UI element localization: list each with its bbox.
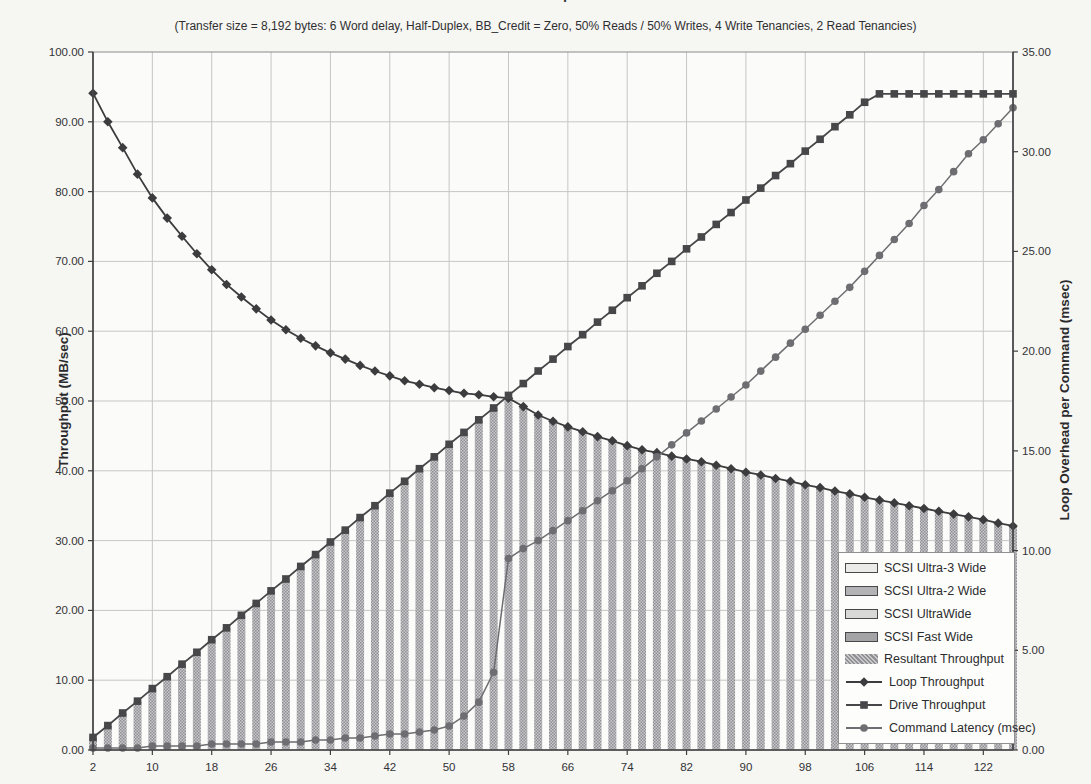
legend-item-scsi-ultrawide: SCSI UltraWide — [845, 603, 1008, 624]
x-axis-tick-label: 2 — [90, 761, 96, 773]
left-axis-tick-label: 30.00 — [55, 535, 84, 547]
x-axis-tick-label: 10 — [146, 761, 159, 773]
left-axis-tick-label: 80.00 — [55, 186, 84, 198]
legend-item-resultant-throughput: Resultant Throughput — [845, 649, 1008, 670]
legend-item-scsi-fast-wide: SCSI Fast Wide — [845, 626, 1008, 647]
left-axis-tick-label: 40.00 — [55, 465, 84, 477]
left-axis-tick-label: 50.00 — [55, 395, 84, 407]
page-root: Fibre Channel Arbitrated Loop Performanc… — [0, 0, 1091, 784]
legend-swatch-diamond-marker — [845, 675, 883, 689]
left-axis-tick-label: 100.00 — [49, 46, 84, 58]
right-axis-tick-label: 10.00 — [1022, 545, 1051, 557]
legend: SCSI Ultra-3 WideSCSI Ultra-2 WideSCSI U… — [838, 552, 1015, 744]
legend-swatch-box — [845, 632, 878, 642]
legend-label: Resultant Throughput — [884, 652, 1004, 666]
right-axis-tick-label: 35.00 — [1022, 46, 1051, 58]
x-axis-tick-label: 26 — [265, 761, 278, 773]
x-axis-tick-label: 18 — [205, 761, 218, 773]
right-axis-tick-label: 0.00 — [1022, 744, 1044, 756]
legend-label: SCSI Ultra-2 Wide — [884, 584, 986, 598]
legend-swatch-pattern — [845, 654, 878, 664]
legend-swatch-box — [845, 609, 878, 619]
legend-label: Command Latency (msec) — [889, 721, 1036, 735]
x-axis-tick-label: 90 — [740, 761, 753, 773]
x-axis-tick-label: 114 — [915, 761, 934, 773]
right-axis-tick-label: 5.00 — [1022, 644, 1044, 656]
left-axis-tick-label: 0.00 — [62, 744, 84, 756]
legend-item-scsi-ultra-3-wide: SCSI Ultra-3 Wide — [845, 558, 1008, 579]
x-axis-tick-label: 98 — [799, 761, 812, 773]
legend-label: Loop Throughput — [889, 675, 984, 689]
x-axis-tick-label: 106 — [855, 761, 874, 773]
left-axis-tick-label: 90.00 — [55, 116, 84, 128]
legend-label: SCSI Ultra-3 Wide — [884, 561, 986, 575]
right-axis-tick-label: 25.00 — [1022, 245, 1051, 257]
legend-label: SCSI Fast Wide — [884, 630, 973, 644]
left-axis-tick-label: 10.00 — [55, 674, 84, 686]
left-axis-tick-label: 60.00 — [55, 325, 84, 337]
x-axis-tick-label: 74 — [621, 761, 634, 773]
x-axis-tick-label: 122 — [974, 761, 993, 773]
x-axis-tick-label: 82 — [680, 761, 693, 773]
x-axis-tick-label: 50 — [443, 761, 456, 773]
right-axis-tick-label: 30.00 — [1022, 146, 1051, 158]
left-axis-tick-label: 20.00 — [55, 604, 84, 616]
right-axis-tick-label: 15.00 — [1022, 445, 1051, 457]
legend-label: SCSI UltraWide — [884, 607, 972, 621]
right-axis-tick-label: 20.00 — [1022, 345, 1051, 357]
legend-item-drive-throughput: Drive Throughput — [845, 694, 1008, 715]
left-axis-tick-label: 70.00 — [55, 255, 84, 267]
legend-item-loop-throughput: Loop Throughput — [845, 672, 1008, 693]
legend-label: Drive Throughput — [889, 698, 985, 712]
x-axis-tick-label: 42 — [383, 761, 396, 773]
x-axis-tick-label: 58 — [502, 761, 515, 773]
x-axis-tick-label: 66 — [561, 761, 574, 773]
legend-item-command-latency-msec-: Command Latency (msec) — [845, 717, 1008, 738]
x-axis-tick-label: 34 — [324, 761, 337, 773]
legend-item-scsi-ultra-2-wide: SCSI Ultra-2 Wide — [845, 581, 1008, 602]
legend-swatch-box — [845, 586, 878, 596]
legend-swatch-square-marker — [845, 698, 883, 712]
legend-swatch-box — [845, 563, 878, 573]
legend-swatch-circle-marker — [845, 721, 883, 735]
